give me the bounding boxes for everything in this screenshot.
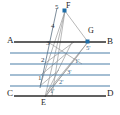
label-G: G [88,27,94,35]
label-B: B [107,37,113,46]
division-label-1-prime: 1' [75,58,79,65]
geometry-figure [0,0,120,115]
line-F-to-G [65,11,88,42]
division-ladder-group [40,8,57,88]
division-label-1-prime-lower: 1' [50,88,54,95]
division-label-5-prime: 5' [86,45,90,52]
label-C: C [7,89,13,98]
marker-point-G [86,40,90,44]
label-A: A [7,36,14,45]
line-G-to-lower [47,42,88,92]
division-label-1: 1 [38,75,42,82]
diagram-canvas: A B C D F G E 5 4 3 2 1 5' 1' 3' 2' 1' [0,0,120,115]
division-label-3-prime: 3' [67,69,71,76]
label-F: F [66,2,70,10]
label-E: E [41,99,46,107]
division-ladder [40,8,57,88]
division-label-5: 5 [55,4,59,11]
division-label-3: 3 [46,40,50,47]
division-label-2: 2 [41,57,45,64]
division-label-2-prime: 2' [59,79,63,86]
label-D: D [107,89,114,98]
division-label-4: 4 [51,23,55,30]
